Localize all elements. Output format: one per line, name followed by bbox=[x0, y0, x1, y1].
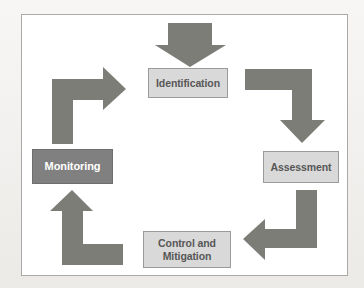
assessment-to-control-arrow bbox=[243, 190, 317, 260]
diagram-canvas: Identification Assessment Control and Mi… bbox=[0, 0, 364, 288]
control-to-monitoring-arrow bbox=[50, 190, 123, 265]
node-control-label-line2: Mitigation bbox=[158, 250, 216, 262]
node-identification-label: Identification bbox=[156, 77, 220, 89]
node-control-label-line1: Control and bbox=[158, 237, 216, 249]
identification-to-assessment-arrow bbox=[245, 69, 325, 143]
node-monitoring-label: Monitoring bbox=[45, 160, 101, 173]
node-control-label-block: Control and Mitigation bbox=[158, 237, 216, 263]
monitoring-to-identification-arrow bbox=[52, 67, 126, 144]
node-assessment-label: Assessment bbox=[271, 161, 332, 173]
node-identification[interactable]: Identification bbox=[148, 68, 228, 98]
node-assessment[interactable]: Assessment bbox=[263, 151, 339, 183]
node-control-and-mitigation[interactable]: Control and Mitigation bbox=[143, 231, 231, 268]
node-monitoring[interactable]: Monitoring bbox=[32, 149, 113, 184]
entry-arrow bbox=[155, 23, 226, 67]
